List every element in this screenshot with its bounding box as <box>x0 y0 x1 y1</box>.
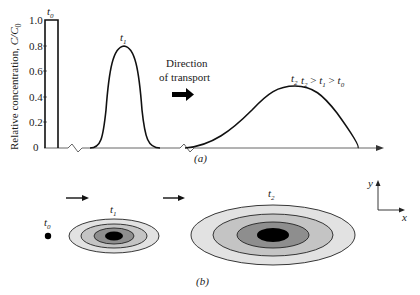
t1-label: t1 <box>120 31 127 46</box>
time-inequality: t2 > t1 > t0 <box>301 74 345 89</box>
t0-point <box>45 233 51 239</box>
y-axis-letter: y <box>367 177 373 189</box>
panel-a: Relative concentration, C/C0 1.0 0.8 0.6… <box>8 5 384 165</box>
t2-label: t2 <box>291 72 298 87</box>
y-tick-0-4: 0.4 <box>29 91 43 103</box>
t0-pulse <box>45 20 58 148</box>
caption-a: (a) <box>194 152 207 165</box>
figure: Relative concentration, C/C0 1.0 0.8 0.6… <box>0 0 420 295</box>
panel-b: t0 t1 t2 y x (b) <box>44 177 407 288</box>
y-tick-labels: 1.0 0.8 0.6 0.4 0.2 0 <box>29 14 43 153</box>
direction-label-line1: Direction <box>166 57 208 69</box>
t1-curve <box>90 46 160 148</box>
transport-arrow-1-icon <box>66 195 89 201</box>
y-axis-label: Relative concentration, C/C0 <box>8 24 23 151</box>
y-tick-0: 0 <box>33 141 39 153</box>
t1-plume <box>69 219 159 253</box>
caption-b: (b) <box>196 275 209 288</box>
direction-label-line2: of transport <box>159 71 210 83</box>
y-tick-0-8: 0.8 <box>29 40 43 52</box>
y-tick-0-6: 0.6 <box>29 65 43 77</box>
t0-label: t0 <box>47 5 54 20</box>
x-axis-letter: x <box>401 211 407 223</box>
y-tick-1-0: 1.0 <box>29 14 43 26</box>
direction-arrow-icon <box>172 88 194 101</box>
t0-plume-label: t0 <box>44 216 51 231</box>
diagram-svg: Relative concentration, C/C0 1.0 0.8 0.6… <box>0 0 420 295</box>
t2-curve <box>185 86 358 148</box>
y-tick-0-2: 0.2 <box>29 116 43 128</box>
t2-plume-label: t2 <box>268 187 275 202</box>
xy-axes-icon <box>376 180 406 213</box>
t2-plume <box>191 205 355 265</box>
t1-plume-label: t1 <box>110 203 117 218</box>
x-axis-arrow-icon <box>376 145 384 151</box>
transport-arrow-2-icon <box>163 195 185 201</box>
